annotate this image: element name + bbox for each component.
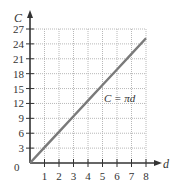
x-tick-label: 4 [85, 170, 91, 182]
y-tick-label: 9 [19, 112, 25, 124]
x-tick-label: 5 [100, 170, 106, 182]
equation-label: C = πd [104, 92, 136, 104]
chart-canvas: 12345678369121518212427 C d 0 C = πd [0, 0, 174, 189]
y-tick-label: 21 [13, 53, 24, 65]
x-axis-arrow-icon [154, 160, 162, 166]
y-tick-label: 3 [19, 142, 25, 154]
x-tick-label: 7 [129, 170, 135, 182]
x-tick-label: 1 [42, 170, 48, 182]
x-axis-label: d [163, 157, 170, 171]
x-tick-label: 6 [114, 170, 120, 182]
origin-label: 0 [14, 161, 20, 173]
x-tick-label: 8 [143, 170, 149, 182]
y-tick-label: 15 [13, 83, 25, 95]
y-tick-label: 12 [13, 97, 24, 109]
y-tick-label: 6 [19, 127, 25, 139]
y-tick-label: 24 [13, 38, 25, 50]
y-axis-arrow-icon [27, 10, 33, 18]
axes [27, 10, 162, 166]
y-axis-label: C [14, 11, 23, 25]
y-tick-label: 18 [13, 68, 25, 80]
x-tick-label: 2 [56, 170, 62, 182]
x-tick-label: 3 [71, 170, 77, 182]
